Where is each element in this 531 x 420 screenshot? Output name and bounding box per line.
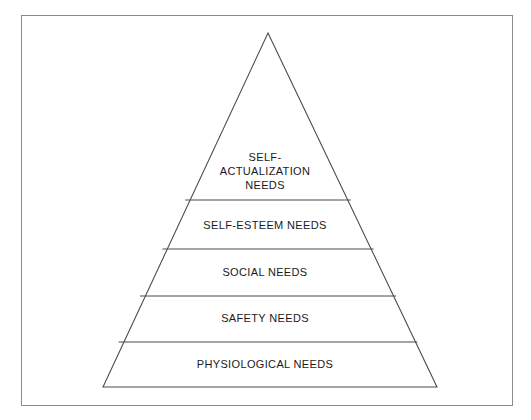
tier-label-safety: SAFETY NEEDS [0, 311, 531, 325]
tier-label-physiological: PHYSIOLOGICAL NEEDS [0, 357, 531, 371]
tier-label-self-esteem: SELF-ESTEEM NEEDS [0, 218, 531, 232]
tier-label-social: SOCIAL NEEDS [0, 265, 531, 279]
tier-label-self-actualization: SELF- ACTUALIZATION NEEDS [0, 150, 531, 192]
maslow-hierarchy-figure: SELF- ACTUALIZATION NEEDS SELF-ESTEEM NE… [0, 0, 531, 420]
pyramid-outline [103, 33, 437, 387]
